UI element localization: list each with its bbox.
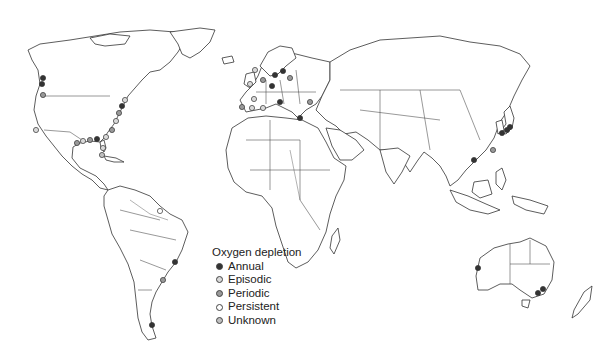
depletion-site-marker — [540, 286, 545, 291]
depletion-site-marker — [475, 265, 480, 270]
depletion-site-marker — [109, 127, 114, 132]
depletion-site-marker — [99, 152, 104, 157]
depletion-site-marker — [80, 138, 85, 143]
depletion-site-marker — [269, 83, 274, 88]
legend-title: Oxygen depletion — [212, 246, 302, 260]
annual-marker-icon — [216, 263, 223, 270]
depletion-site-marker — [249, 105, 254, 110]
depletion-site-marker — [33, 127, 38, 132]
cuba — [104, 156, 124, 162]
depletion-site-marker — [239, 104, 244, 109]
depletion-site-marker — [287, 75, 292, 80]
tasmania — [522, 300, 530, 308]
north-america — [28, 30, 185, 190]
legend-label: Episodic — [228, 273, 271, 287]
depletion-site-marker — [252, 67, 257, 72]
legend-item-unknown: Unknown — [216, 314, 302, 328]
depletion-site-marker — [113, 118, 118, 123]
india — [380, 148, 410, 184]
depletion-site-marker — [74, 140, 79, 145]
depletion-site-marker — [277, 99, 282, 104]
depletion-site-marker — [297, 115, 302, 120]
legend-label: Annual — [228, 260, 264, 274]
legend-label: Persistent — [228, 300, 279, 314]
episodic-marker-icon — [216, 276, 223, 283]
depletion-site-marker — [499, 130, 504, 135]
depletion-site-marker — [251, 96, 256, 101]
depletion-site-marker — [100, 145, 105, 150]
depletion-site-marker — [280, 68, 285, 73]
legend-label: Unknown — [228, 314, 276, 328]
legend-item-persistent: Persistent — [216, 300, 302, 314]
new-zealand — [572, 286, 592, 318]
depletion-site-marker — [157, 208, 162, 213]
depletion-site-marker — [307, 99, 312, 104]
legend-label: Periodic — [228, 287, 270, 301]
new-guinea — [512, 196, 548, 214]
depletion-site-marker — [160, 277, 165, 282]
persistent-marker-icon — [216, 304, 223, 311]
unknown-marker-icon — [216, 317, 223, 324]
depletion-site-marker — [122, 97, 127, 102]
depletion-site-marker — [471, 157, 476, 162]
depletion-site-marker — [247, 81, 252, 86]
depletion-site-marker — [40, 75, 45, 80]
depletion-site-marker — [87, 137, 92, 142]
depletion-site-marker — [39, 81, 44, 86]
depletion-site-marker — [172, 259, 177, 264]
legend-item-annual: Annual — [216, 260, 302, 274]
depletion-site-marker — [535, 290, 540, 295]
depletion-site-marker — [149, 322, 154, 327]
depletion-site-marker — [260, 105, 265, 110]
asia — [316, 36, 530, 186]
world-map — [0, 0, 613, 355]
madagascar — [330, 228, 340, 254]
iceland — [222, 56, 234, 64]
borneo — [472, 180, 492, 198]
periodic-marker-icon — [216, 290, 223, 297]
philippines — [496, 168, 506, 190]
depletion-site-marker — [116, 110, 121, 115]
depletion-site-marker — [260, 77, 265, 82]
legend-item-episodic: Episodic — [216, 273, 302, 287]
depletion-site-marker — [490, 147, 495, 152]
depletion-site-marker — [40, 92, 45, 97]
depletion-site-marker — [504, 127, 509, 132]
legend-item-periodic: Periodic — [216, 287, 302, 301]
depletion-site-marker — [272, 72, 277, 77]
depletion-site-marker — [103, 134, 108, 139]
legend: Oxygen depletion Annual Episodic Periodi… — [212, 246, 302, 328]
depletion-site-marker — [119, 103, 124, 108]
depletion-site-marker — [94, 136, 99, 141]
